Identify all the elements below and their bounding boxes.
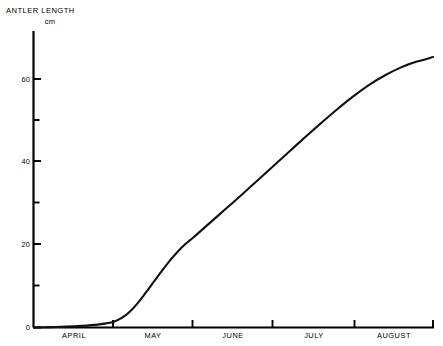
- y-tick-label-40: 40: [8, 157, 30, 166]
- antler-growth-curve: [34, 57, 433, 327]
- y-tick-label-20: 20: [8, 240, 30, 249]
- chart-plot-area: [0, 0, 443, 346]
- x-axis-ticks: [113, 320, 433, 328]
- x-tick-label-june: JUNE: [201, 331, 265, 340]
- x-tick-label-may: MAY: [121, 331, 185, 340]
- x-tick-label-april: APRIL: [42, 331, 106, 340]
- y-tick-label-60: 60: [8, 75, 30, 84]
- y-tick-label-0: 0: [8, 323, 30, 332]
- x-tick-label-august: AUGUST: [362, 331, 426, 340]
- antler-length-chart-figure: ANTLER LENGTH cm 0: [0, 0, 443, 346]
- x-tick-label-july: JULY: [282, 331, 346, 340]
